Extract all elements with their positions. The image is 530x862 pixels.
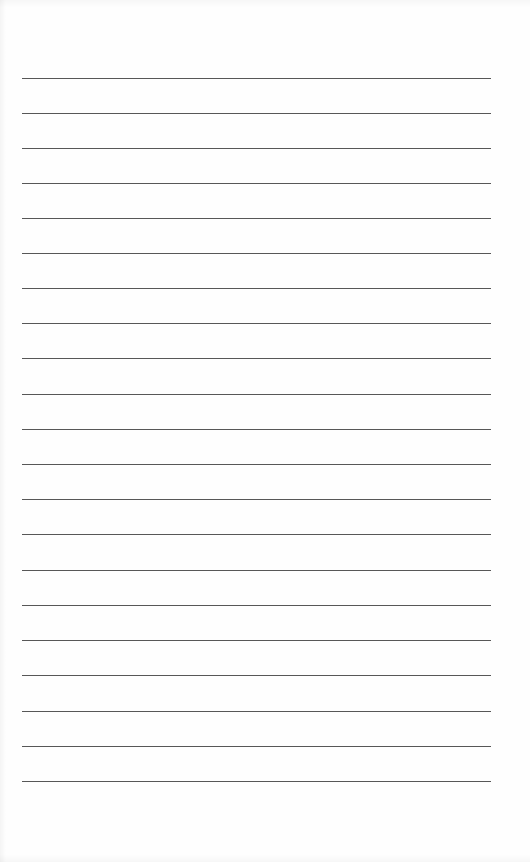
ruled-line xyxy=(22,288,491,289)
ruled-line xyxy=(22,358,491,359)
ruled-line xyxy=(22,499,491,500)
ruled-line xyxy=(22,746,491,747)
ruled-line xyxy=(22,113,491,114)
lined-paper-page xyxy=(0,0,530,862)
ruled-line xyxy=(22,464,491,465)
ruled-line xyxy=(22,183,491,184)
ruled-line xyxy=(22,640,491,641)
left-scan-edge xyxy=(0,0,6,862)
ruled-line xyxy=(22,148,491,149)
ruled-line xyxy=(22,78,491,79)
ruled-line xyxy=(22,534,491,535)
ruled-line xyxy=(22,253,491,254)
bottom-scan-shadow xyxy=(0,854,530,862)
ruled-line xyxy=(22,429,491,430)
ruled-line xyxy=(22,323,491,324)
ruled-line xyxy=(22,605,491,606)
top-scan-shadow xyxy=(0,0,530,8)
ruled-line xyxy=(22,218,491,219)
ruled-line xyxy=(22,675,491,676)
ruled-line xyxy=(22,570,491,571)
ruled-line xyxy=(22,781,491,782)
ruled-line xyxy=(22,711,491,712)
ruled-line xyxy=(22,394,491,395)
